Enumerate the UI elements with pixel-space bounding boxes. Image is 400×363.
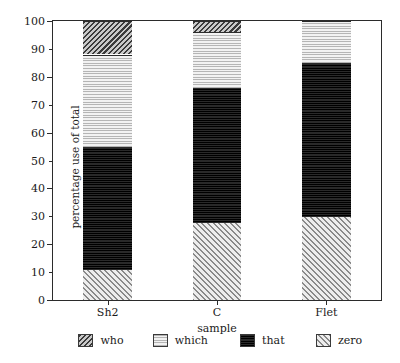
bar-segment-who — [83, 21, 132, 54]
x-tick-label: Flet — [315, 307, 337, 318]
legend-swatch-that — [240, 334, 255, 347]
bars-layer — [53, 21, 381, 300]
y-tick-label: 90 — [31, 43, 45, 54]
legend-label: which — [175, 335, 208, 346]
y-tick-label: 50 — [31, 155, 45, 166]
legend-label: zero — [338, 335, 362, 346]
legend-item-zero: zero — [316, 334, 362, 347]
y-tick-label: 60 — [31, 127, 45, 138]
y-tick-label: 40 — [31, 183, 45, 194]
legend-item-that: that — [240, 334, 284, 347]
bar-segment-which — [83, 55, 132, 147]
plot-area: 0102030405060708090100 Sh2CFlet percenta… — [52, 20, 382, 301]
bar-segment-which — [193, 32, 242, 88]
x-tick-label: Sh2 — [97, 307, 119, 318]
bar-segment-that — [302, 63, 351, 216]
bar-segment-zero — [302, 216, 351, 300]
bar-stack — [83, 21, 132, 300]
y-tick-label: 100 — [24, 16, 45, 27]
legend-label: who — [100, 335, 123, 346]
y-tick-label: 80 — [31, 71, 45, 82]
x-tick-mark — [108, 300, 109, 305]
legend-swatch-which — [153, 334, 168, 347]
chart-figure: 0102030405060708090100 Sh2CFlet percenta… — [0, 0, 400, 363]
bar-segment-that — [193, 88, 242, 222]
bar-stack — [302, 21, 351, 300]
chart-legend: whowhichthatzero — [52, 334, 382, 354]
y-tick-label: 30 — [31, 211, 45, 222]
x-tick-label: C — [213, 307, 221, 318]
bar-segment-zero — [83, 269, 132, 300]
y-tick-label: 70 — [31, 99, 45, 110]
y-tick-label: 20 — [31, 239, 45, 250]
y-tick-mark — [47, 300, 53, 301]
bar-segment-who — [193, 21, 242, 32]
legend-label: that — [262, 335, 284, 346]
bar-segment-which — [302, 21, 351, 63]
x-tick-mark — [326, 300, 327, 305]
bar-stack — [193, 21, 242, 300]
legend-swatch-who — [78, 334, 93, 347]
legend-swatch-zero — [316, 334, 331, 347]
x-tick-mark — [217, 300, 218, 305]
y-axis-title: percentage use of total — [69, 67, 81, 267]
y-tick-label: 0 — [38, 295, 45, 306]
legend-item-which: which — [153, 334, 208, 347]
bar-segment-that — [83, 147, 132, 270]
legend-item-who: who — [78, 334, 123, 347]
bar-segment-zero — [193, 222, 242, 300]
y-tick-label: 10 — [31, 267, 45, 278]
